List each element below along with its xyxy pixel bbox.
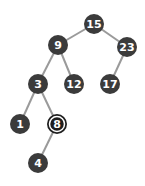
tree-node-4: 4	[28, 153, 48, 173]
node-label: 23	[119, 41, 134, 54]
node-label: 8	[53, 118, 61, 131]
node-label: 9	[54, 39, 62, 52]
tree-node-8: 8	[47, 114, 67, 134]
tree-node-1: 1	[10, 114, 30, 134]
tree-node-12: 12	[64, 74, 84, 94]
node-label: 17	[102, 78, 117, 91]
node-label: 12	[66, 78, 81, 91]
node-label: 3	[34, 78, 42, 91]
node-label: 4	[34, 157, 42, 170]
tree-node-23: 23	[117, 37, 137, 57]
tree-nodes: 1592331217184	[10, 14, 137, 173]
tree-node-17: 17	[100, 74, 120, 94]
node-label: 1	[16, 118, 24, 131]
node-label: 15	[86, 18, 101, 31]
tree-node-15: 15	[84, 14, 104, 34]
binary-tree-diagram: 1592331217184	[0, 0, 145, 186]
tree-node-9: 9	[48, 35, 68, 55]
tree-node-3: 3	[28, 74, 48, 94]
